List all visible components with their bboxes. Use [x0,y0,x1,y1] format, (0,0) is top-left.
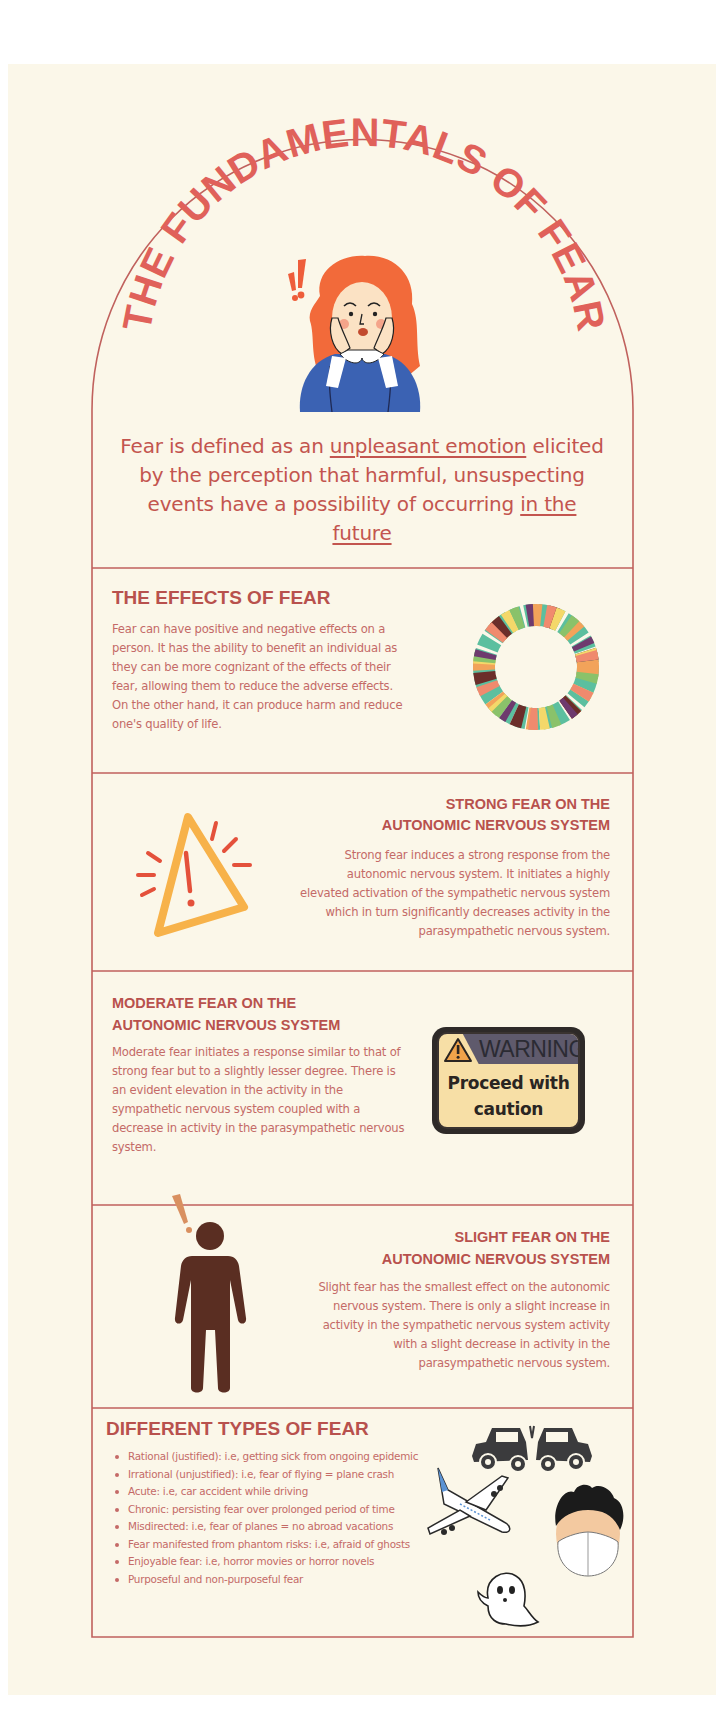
slight-fear-body: Slight fear has the smallest effect on t… [300,1278,610,1373]
heading-line: STRONG FEAR ON THE [300,794,610,815]
list-item: Irrational (unjustified): i.e, fear of f… [112,1466,422,1484]
definition-highlight-unpleasant-emotion: unpleasant emotion [330,434,526,458]
heading-line: AUTONOMIC NERVOUS SYSTEM [300,815,610,836]
heading-line: MODERATE FEAR ON THE [112,992,412,1014]
list-item: Fear manifested from phantom risks: i.e,… [112,1536,422,1554]
alarmed-person-icon [158,1188,268,1398]
scared-woman-illustration [280,226,440,412]
heading-line: SLIGHT FEAR ON THE [300,1226,610,1248]
list-item: Purposeful and non-purposeful fear [112,1571,422,1589]
definition-text: Fear is defined as an [120,434,329,458]
list-item: Rational (justified): i.e, getting sick … [112,1448,422,1466]
warning-sign-icon: WARNING Proceed with caution [432,1027,585,1134]
moderate-fear-heading: MODERATE FEAR ON THE AUTONOMIC NERVOUS S… [112,992,412,1036]
list-item: Enjoyable fear: i.e, horror movies or ho… [112,1553,422,1571]
list-item: Acute: i.e, car accident while driving [112,1483,422,1501]
exclamation-icon [288,259,306,301]
types-heading: DIFFERENT TYPES OF FEAR [106,1418,369,1440]
heading-line: AUTONOMIC NERVOUS SYSTEM [300,1248,610,1270]
ring-of-people-icon [466,597,606,737]
strong-fear-body: Strong fear induces a strong response fr… [300,846,610,941]
moderate-fear-body: Moderate fear initiates a response simil… [112,1043,412,1157]
list-item: Misdirected: i.e, fear of planes = no ab… [112,1518,422,1536]
slight-fear-heading: SLIGHT FEAR ON THE AUTONOMIC NERVOUS SYS… [300,1226,610,1270]
masked-face-icon [548,1482,628,1578]
heading-line: AUTONOMIC NERVOUS SYSTEM [112,1014,412,1036]
effects-body: Fear can have positive and negative effe… [112,620,412,734]
warning-message-line: Proceed with [439,1070,578,1096]
warning-message-line: caution [439,1096,578,1122]
strong-fear-heading: STRONG FEAR ON THE AUTONOMIC NERVOUS SYS… [300,794,610,836]
fear-definition: Fear is defined as an unpleasant emotion… [120,432,604,548]
fear-types-list: Rational (justified): i.e, getting sick … [112,1448,422,1588]
list-item: Chronic: persisting fear over prolonged … [112,1501,422,1519]
alert-icon [443,1037,473,1063]
warning-message: Proceed with caution [439,1070,578,1122]
ghost-icon [474,1566,540,1632]
warning-label: WARNING [479,1035,574,1063]
warning-triangle-icon [128,795,268,945]
effects-heading: THE EFFECTS OF FEAR [112,587,331,609]
airplane-icon [420,1464,520,1544]
